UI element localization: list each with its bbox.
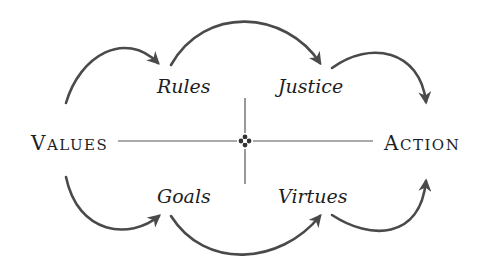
arrow-values-to-goals (66, 177, 159, 230)
arrow-rules-to-justice (171, 22, 320, 65)
node-justice: Justice (274, 75, 343, 97)
node-rules: Rules (156, 75, 211, 97)
node-virtues: Virtues (278, 185, 348, 207)
arrow-values-to-rules (66, 48, 158, 103)
node-values: VALUES (30, 131, 108, 155)
node-action: ACTION (383, 131, 460, 155)
arrow-goals-to-virtues (171, 216, 320, 255)
values-action-diagram: VALUES ACTION Rules Justice Goals Virtue… (0, 0, 483, 275)
cross-ornament-icon (239, 135, 252, 148)
arrow-justice-to-action (332, 53, 426, 102)
node-goals: Goals (157, 185, 211, 207)
